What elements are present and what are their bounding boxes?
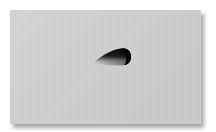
photo-scene: Gray card with a teardrop-shaped cutout … <box>0 0 216 132</box>
teardrop-cutout-icon <box>92 47 132 67</box>
scene-description: Gray card with a teardrop-shaped cutout … <box>0 0 1 1</box>
gray-card <box>10 10 201 124</box>
